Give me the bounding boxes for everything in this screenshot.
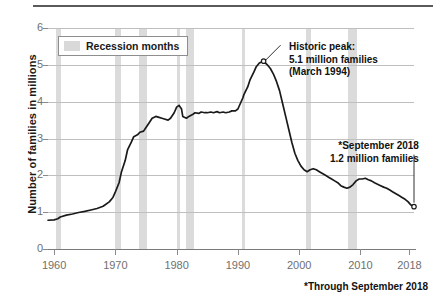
x-tick-mark [115, 249, 116, 255]
x-tick-label: 1970 [103, 259, 127, 271]
x-tick-label: 2010 [348, 259, 372, 271]
x-tick-label: 2018 [397, 259, 421, 271]
x-tick-label: 1960 [42, 259, 66, 271]
x-tick-label: 1980 [164, 259, 188, 271]
annotation-last-line-1: *September 2018 [330, 140, 419, 153]
annotation-peak-line-3: (March 1994) [289, 66, 378, 79]
y-tick-label: 1 [21, 205, 43, 217]
annotation-peak-line-1: Historic peak: [289, 41, 378, 54]
x-tick-mark [360, 249, 361, 255]
annotation-peak-line-2: 5.1 million families [289, 54, 378, 67]
legend: Recession months [58, 36, 188, 56]
y-tick-label: 4 [21, 95, 43, 107]
x-tick-label: 1990 [226, 259, 250, 271]
peak-leader-line [266, 45, 281, 60]
top-rule [33, 5, 433, 7]
y-tick-label: 2 [21, 168, 43, 180]
footnote: *Through September 2018 [304, 281, 428, 292]
peak-marker [261, 59, 265, 63]
annotation-historic-peak: Historic peak: 5.1 million families (Mar… [289, 41, 378, 79]
y-tick-label: 3 [21, 132, 43, 144]
x-tick-mark [54, 249, 55, 255]
y-tick-label: 0 [21, 242, 43, 254]
x-tick-mark [409, 249, 410, 255]
x-tick-mark [177, 249, 178, 255]
recession-band-swatch-icon [64, 41, 80, 51]
legend-label-recession: Recession months [86, 40, 179, 52]
y-tick-label: 6 [21, 21, 43, 33]
x-tick-mark [238, 249, 239, 255]
x-tick-mark [299, 249, 300, 255]
y-tick-mark [43, 249, 48, 250]
annotation-september-2018: *September 2018 1.2 million families [330, 140, 419, 165]
y-tick-label: 5 [21, 58, 43, 70]
last-point-marker [412, 204, 416, 208]
chart-figure: Number of families in millions 196019701… [0, 0, 434, 304]
x-tick-label: 2000 [287, 259, 311, 271]
annotation-last-line-2: 1.2 million families [330, 153, 419, 166]
